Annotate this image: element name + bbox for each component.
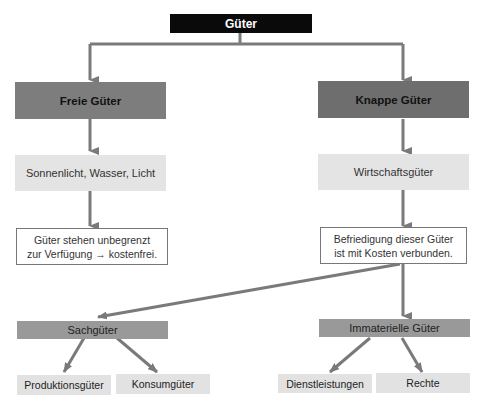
- node-unbegrenzt: Güter stehen unbegrenzt zur Verfügung → …: [16, 228, 168, 265]
- connectors: [0, 0, 485, 406]
- node-kosten-verbunden: Befriedigung dieser Güter ist mit Kosten…: [320, 227, 467, 264]
- node-sonnenlicht: Sonnenlicht, Wasser, Licht: [15, 155, 166, 191]
- node-konsumgueter: Konsumgüter: [116, 374, 210, 394]
- wirtschaftsgueter-label: Wirtschaftsgüter: [354, 166, 433, 178]
- konsumgueter-label: Konsumgüter: [132, 378, 194, 390]
- sachgueter-label: Sachgüter: [67, 324, 117, 336]
- produktionsgueter-label: Produktionsgüter: [24, 379, 103, 391]
- node-produktionsgueter: Produktionsgüter: [17, 375, 111, 395]
- node-sachgueter: Sachgüter: [17, 321, 168, 339]
- node-immaterielle-gueter: Immaterielle Güter: [319, 319, 470, 337]
- node-dienstleistungen: Dienstleistungen: [278, 374, 372, 393]
- rechte-label: Rechte: [406, 377, 439, 389]
- immaterielle-label: Immaterielle Güter: [349, 322, 439, 334]
- root-label: Güter: [225, 17, 257, 31]
- unbegrenzt-line1: Güter stehen unbegrenzt: [34, 233, 150, 247]
- freie-gueter-label: Freie Güter: [60, 95, 121, 107]
- sonnenlicht-label: Sonnenlicht, Wasser, Licht: [26, 167, 155, 179]
- dienstleistungen-label: Dienstleistungen: [286, 378, 364, 390]
- node-rechte: Rechte: [376, 373, 470, 393]
- knappe-gueter-label: Knappe Güter: [355, 94, 431, 106]
- unbegrenzt-line2: zur Verfügung → kostenfrei.: [27, 247, 157, 261]
- kosten-line1: Befriedigung dieser Güter: [334, 232, 454, 246]
- node-wirtschaftsgueter: Wirtschaftsgüter: [318, 154, 469, 190]
- kosten-line2: ist mit Kosten verbunden.: [334, 246, 452, 260]
- node-knappe-gueter: Knappe Güter: [318, 81, 469, 118]
- root-node-gueter: Güter: [170, 14, 312, 33]
- node-freie-gueter: Freie Güter: [15, 82, 166, 119]
